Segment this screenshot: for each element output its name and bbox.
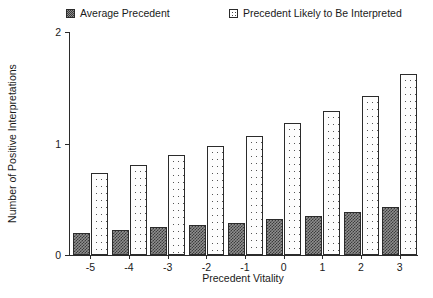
bar-group (344, 32, 379, 255)
bar-groups: -5-4-3-2-10123 (69, 32, 417, 255)
y-tick-mark (65, 255, 69, 256)
bar-average-precedent--4 (112, 230, 129, 255)
y-axis-title: Number of Positive Interpretations (6, 32, 18, 255)
x-tick-mark (206, 255, 207, 259)
legend-label-precedent-likely-to-be-interpreted: Precedent Likely to Be Interpreted (243, 7, 402, 19)
bar-group (305, 32, 340, 255)
chart-legend: Average Precedent Precedent Likely to Be… (0, 6, 433, 24)
y-tick-label-2: 2 (49, 27, 61, 37)
x-axis-line (69, 255, 418, 256)
bar-precedent-likely-to-be-interpreted--1 (246, 136, 263, 255)
x-tick-mark (400, 255, 401, 259)
y-tick-mark (65, 32, 69, 33)
bar-precedent-likely-to-be-interpreted--3 (168, 155, 185, 255)
bar-precedent-likely-to-be-interpreted-2 (362, 96, 379, 255)
y-tick-label-1: 1 (49, 139, 61, 149)
light-dotted-square-icon (229, 9, 238, 18)
dark-checkered-square-icon (66, 9, 75, 18)
legend-label-average-precedent: Average Precedent (80, 7, 170, 19)
bar-group (112, 32, 147, 255)
bar-precedent-likely-to-be-interpreted-0 (284, 123, 301, 255)
bar-average-precedent-0 (266, 219, 283, 255)
x-tick-mark (284, 255, 285, 259)
bar-chart: Average Precedent Precedent Likely to Be… (0, 0, 433, 298)
legend-item-average-precedent: Average Precedent (66, 7, 170, 19)
bar-average-precedent--1 (228, 223, 245, 255)
bar-average-precedent--3 (150, 227, 167, 255)
y-tick-mark (65, 144, 69, 145)
bar-group (382, 32, 417, 255)
bar-average-precedent-1 (305, 216, 322, 255)
bar-group (228, 32, 263, 255)
x-tick-mark (245, 255, 246, 259)
bar-average-precedent--5 (73, 233, 90, 255)
bar-precedent-likely-to-be-interpreted--4 (130, 165, 147, 255)
x-tick-mark (129, 255, 130, 259)
bar-precedent-likely-to-be-interpreted--5 (91, 173, 108, 256)
x-tick-mark (90, 255, 91, 259)
bar-precedent-likely-to-be-interpreted-3 (400, 74, 417, 255)
bar-group (150, 32, 185, 255)
x-tick-mark (322, 255, 323, 259)
bar-group (189, 32, 224, 255)
bar-average-precedent--2 (189, 225, 206, 255)
y-tick-label-0: 0 (49, 250, 61, 260)
bar-average-precedent-2 (344, 212, 361, 255)
plot-area: Number of Positive Interpretations -5-4-… (69, 32, 417, 255)
bar-group (266, 32, 301, 255)
legend-item-precedent-likely-to-be-interpreted: Precedent Likely to Be Interpreted (229, 7, 402, 19)
x-tick-mark (361, 255, 362, 259)
bar-group (73, 32, 108, 255)
x-tick-mark (168, 255, 169, 259)
x-axis-title: Precedent Vitality (69, 272, 417, 284)
bar-precedent-likely-to-be-interpreted-1 (323, 111, 340, 255)
bar-precedent-likely-to-be-interpreted--2 (207, 146, 224, 255)
bar-average-precedent-3 (382, 207, 399, 255)
